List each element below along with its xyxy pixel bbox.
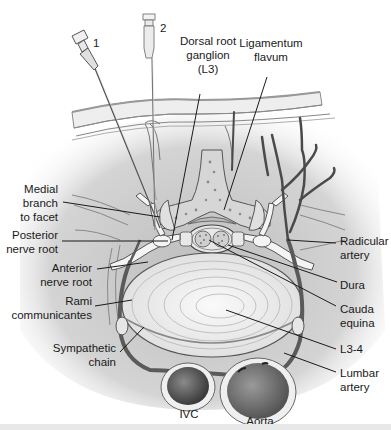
svg-text:Dorsal root: Dorsal root: [180, 35, 237, 47]
label-ivc: IVC: [179, 408, 198, 420]
label-dorsal-root-ganglion: Dorsal root ganglion (L3): [180, 35, 237, 75]
label-lumbar-artery: Lumbar artery: [340, 367, 379, 393]
svg-text:L3-4: L3-4: [340, 343, 364, 355]
label-ligamentum-flavum: Ligamentum flavum: [239, 37, 302, 63]
svg-text:ganglion: ganglion: [186, 49, 229, 61]
svg-text:communicantes: communicantes: [11, 309, 92, 321]
svg-text:IVC: IVC: [179, 408, 198, 420]
svg-text:nerve root: nerve root: [40, 276, 93, 288]
intervertebral-disc: [122, 253, 302, 357]
svg-text:Posterior: Posterior: [12, 229, 58, 241]
svg-text:Rami: Rami: [65, 295, 92, 307]
svg-text:Cauda: Cauda: [340, 303, 374, 315]
svg-text:Dura: Dura: [340, 279, 366, 291]
svg-text:nerve root: nerve root: [6, 243, 59, 255]
label-dura: Dura: [340, 279, 366, 291]
svg-text:(L3): (L3): [198, 63, 219, 75]
svg-text:Radicular: Radicular: [340, 235, 389, 247]
ivc: [161, 363, 215, 411]
needle-2-label: 2: [160, 22, 166, 34]
svg-text:equina: equina: [340, 317, 375, 329]
needle-1-label: 1: [93, 37, 99, 49]
spine-cross-section-diagram: 1 2 Dorsal root ganglion (L3) Ligamentum…: [0, 0, 391, 430]
svg-text:Lumbar: Lumbar: [340, 367, 379, 379]
svg-text:flavum: flavum: [254, 51, 288, 63]
bottom-edge: [0, 424, 391, 430]
svg-text:to facet: to facet: [20, 211, 59, 223]
svg-text:artery: artery: [340, 381, 370, 393]
label-medial-branch: Medial branch to facet: [20, 183, 59, 223]
label-l3-4: L3-4: [340, 343, 364, 355]
dural-sac: [188, 225, 236, 253]
svg-text:branch: branch: [23, 197, 58, 209]
svg-text:Medial: Medial: [24, 183, 58, 195]
svg-text:artery: artery: [340, 249, 370, 261]
svg-text:chain: chain: [89, 356, 117, 368]
svg-text:Anterior: Anterior: [52, 262, 92, 274]
svg-text:Sympathetic: Sympathetic: [53, 342, 117, 354]
svg-text:Ligamentum: Ligamentum: [239, 37, 302, 49]
